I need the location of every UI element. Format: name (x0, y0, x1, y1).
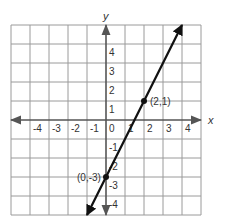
x-tick-label: -4 (33, 123, 42, 134)
tick-labels: -4-3-2-101234-4-3-2-11234 (33, 47, 191, 210)
y-tick-label: 3 (109, 66, 115, 77)
point-marker (141, 98, 147, 104)
x-tick-label: 4 (185, 123, 191, 134)
y-tick-label: -4 (109, 199, 118, 210)
y-tick-label: 1 (109, 104, 115, 115)
y-tick-label: -1 (109, 142, 118, 153)
x-tick-label: -1 (90, 123, 99, 134)
x-tick-label: -2 (71, 123, 80, 134)
y-axis-label: y (102, 10, 110, 22)
y-tick-label: 4 (109, 47, 115, 58)
x-tick-label: 2 (147, 123, 153, 134)
point-label: (0,-3) (77, 172, 101, 183)
coordinate-graph: xy -4-3-2-101234-4-3-2-11234 (2,1)(0,-3) (0, 0, 225, 224)
y-tick-label: -3 (109, 180, 118, 191)
point-marker (103, 174, 109, 180)
point-label: (2,1) (150, 96, 171, 107)
y-tick-label: 2 (109, 85, 115, 96)
x-tick-label: 3 (166, 123, 172, 134)
x-axis-label: x (207, 114, 214, 126)
x-tick-label: -3 (52, 123, 61, 134)
x-tick-label: 0 (109, 123, 115, 134)
